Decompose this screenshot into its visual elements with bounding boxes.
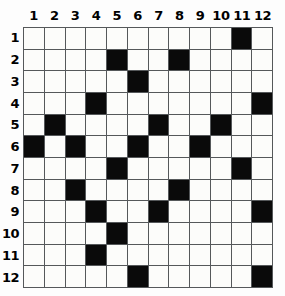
grid-cell-r3-c2[interactable] <box>45 71 65 92</box>
grid-cell-r7-c7[interactable] <box>149 158 169 179</box>
grid-cell-r2-c2[interactable] <box>45 50 65 71</box>
grid-cell-r3-c5[interactable] <box>107 71 127 92</box>
grid-cell-r6-c3[interactable] <box>66 136 86 157</box>
grid-cell-r1-c2[interactable] <box>45 28 65 49</box>
grid-cell-r1-c6[interactable] <box>128 28 148 49</box>
grid-cell-r11-c5[interactable] <box>107 245 127 266</box>
grid-cell-r2-c3[interactable] <box>66 50 86 71</box>
grid-cell-r12-c3[interactable] <box>66 266 86 287</box>
grid-cell-r10-c9[interactable] <box>190 223 210 244</box>
grid-cell-r7-c12[interactable] <box>252 158 272 179</box>
grid-cell-r4-c12[interactable] <box>252 93 272 114</box>
grid-cell-r4-c10[interactable] <box>211 93 231 114</box>
grid-cell-r10-c4[interactable] <box>86 223 106 244</box>
grid-cell-r2-c6[interactable] <box>128 50 148 71</box>
grid-cell-r1-c1[interactable] <box>24 28 44 49</box>
grid-cell-r12-c5[interactable] <box>107 266 127 287</box>
grid-cell-r3-c4[interactable] <box>86 71 106 92</box>
grid-cell-r7-c8[interactable] <box>169 158 189 179</box>
grid-cell-r12-c8[interactable] <box>169 266 189 287</box>
grid-cell-r8-c7[interactable] <box>149 180 169 201</box>
grid-cell-r7-c10[interactable] <box>211 158 231 179</box>
grid-cell-r7-c11[interactable] <box>232 158 252 179</box>
grid-cell-r10-c8[interactable] <box>169 223 189 244</box>
grid-cell-r2-c7[interactable] <box>149 50 169 71</box>
grid-cell-r1-c4[interactable] <box>86 28 106 49</box>
grid-cell-r4-c8[interactable] <box>169 93 189 114</box>
grid-cell-r5-c6[interactable] <box>128 115 148 136</box>
grid-cell-r7-c5[interactable] <box>107 158 127 179</box>
grid-cell-r9-c6[interactable] <box>128 201 148 222</box>
grid-cell-r1-c8[interactable] <box>169 28 189 49</box>
grid-cell-r4-c5[interactable] <box>107 93 127 114</box>
grid-cell-r6-c6[interactable] <box>128 136 148 157</box>
grid-cell-r3-c10[interactable] <box>211 71 231 92</box>
grid-cell-r3-c8[interactable] <box>169 71 189 92</box>
grid-cell-r5-c7[interactable] <box>149 115 169 136</box>
grid-cell-r9-c11[interactable] <box>232 201 252 222</box>
grid-cell-r8-c5[interactable] <box>107 180 127 201</box>
grid-cell-r9-c10[interactable] <box>211 201 231 222</box>
grid-cell-r3-c7[interactable] <box>149 71 169 92</box>
grid-cell-r9-c9[interactable] <box>190 201 210 222</box>
grid-cell-r2-c4[interactable] <box>86 50 106 71</box>
grid-cell-r1-c5[interactable] <box>107 28 127 49</box>
grid-cell-r10-c1[interactable] <box>24 223 44 244</box>
grid-cell-r3-c12[interactable] <box>252 71 272 92</box>
grid-cell-r4-c1[interactable] <box>24 93 44 114</box>
grid-cell-r5-c5[interactable] <box>107 115 127 136</box>
grid-cell-r3-c6[interactable] <box>128 71 148 92</box>
grid-cell-r12-c2[interactable] <box>45 266 65 287</box>
grid-cell-r7-c6[interactable] <box>128 158 148 179</box>
grid-cell-r12-c6[interactable] <box>128 266 148 287</box>
grid-cell-r3-c11[interactable] <box>232 71 252 92</box>
grid-cell-r2-c10[interactable] <box>211 50 231 71</box>
grid-cell-r3-c1[interactable] <box>24 71 44 92</box>
grid-cell-r12-c1[interactable] <box>24 266 44 287</box>
grid-cell-r4-c2[interactable] <box>45 93 65 114</box>
grid-cell-r9-c8[interactable] <box>169 201 189 222</box>
grid-cell-r5-c11[interactable] <box>232 115 252 136</box>
puzzle-grid[interactable] <box>23 27 273 288</box>
grid-cell-r4-c3[interactable] <box>66 93 86 114</box>
grid-cell-r11-c1[interactable] <box>24 245 44 266</box>
grid-cell-r9-c12[interactable] <box>252 201 272 222</box>
grid-cell-r1-c12[interactable] <box>252 28 272 49</box>
grid-cell-r10-c2[interactable] <box>45 223 65 244</box>
grid-cell-r6-c2[interactable] <box>45 136 65 157</box>
grid-cell-r6-c5[interactable] <box>107 136 127 157</box>
grid-cell-r12-c9[interactable] <box>190 266 210 287</box>
grid-cell-r2-c11[interactable] <box>232 50 252 71</box>
grid-cell-r1-c9[interactable] <box>190 28 210 49</box>
grid-cell-r12-c4[interactable] <box>86 266 106 287</box>
grid-cell-r1-c7[interactable] <box>149 28 169 49</box>
grid-cell-r11-c2[interactable] <box>45 245 65 266</box>
grid-cell-r10-c6[interactable] <box>128 223 148 244</box>
grid-cell-r5-c2[interactable] <box>45 115 65 136</box>
grid-cell-r11-c11[interactable] <box>232 245 252 266</box>
grid-cell-r7-c4[interactable] <box>86 158 106 179</box>
grid-cell-r2-c12[interactable] <box>252 50 272 71</box>
grid-cell-r5-c8[interactable] <box>169 115 189 136</box>
grid-cell-r9-c2[interactable] <box>45 201 65 222</box>
grid-cell-r8-c9[interactable] <box>190 180 210 201</box>
grid-cell-r10-c11[interactable] <box>232 223 252 244</box>
grid-cell-r11-c3[interactable] <box>66 245 86 266</box>
grid-cell-r9-c1[interactable] <box>24 201 44 222</box>
grid-cell-r2-c8[interactable] <box>169 50 189 71</box>
grid-cell-r5-c10[interactable] <box>211 115 231 136</box>
grid-cell-r1-c11[interactable] <box>232 28 252 49</box>
grid-cell-r10-c10[interactable] <box>211 223 231 244</box>
grid-cell-r7-c2[interactable] <box>45 158 65 179</box>
grid-cell-r8-c10[interactable] <box>211 180 231 201</box>
grid-cell-r10-c12[interactable] <box>252 223 272 244</box>
grid-cell-r8-c11[interactable] <box>232 180 252 201</box>
grid-cell-r11-c9[interactable] <box>190 245 210 266</box>
grid-cell-r6-c7[interactable] <box>149 136 169 157</box>
grid-cell-r9-c5[interactable] <box>107 201 127 222</box>
grid-cell-r3-c3[interactable] <box>66 71 86 92</box>
grid-cell-r4-c7[interactable] <box>149 93 169 114</box>
grid-cell-r10-c3[interactable] <box>66 223 86 244</box>
grid-cell-r3-c9[interactable] <box>190 71 210 92</box>
grid-cell-r12-c10[interactable] <box>211 266 231 287</box>
